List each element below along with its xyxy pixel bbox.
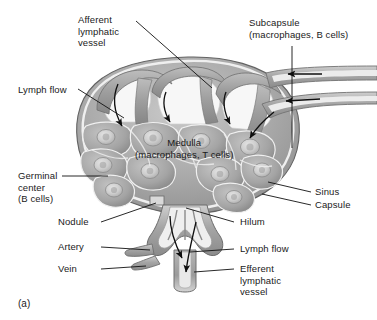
label-afferent-lymphatic-vessel: Afferent lymphatic vessel [78, 14, 119, 49]
label-germinal-center: Germinal center (B cells) [18, 170, 57, 205]
label-medulla: Medulla(macrophages, T cells) [135, 137, 233, 160]
lymph-node-body [77, 57, 300, 214]
leader-efferent [194, 269, 234, 272]
lymph-node-diagram [0, 0, 377, 320]
label-nodule: Nodule [58, 216, 89, 228]
vein-vessel [131, 256, 160, 270]
label-lymph-flow-right: Lymph flow [240, 243, 289, 255]
nodule-marker [150, 196, 164, 205]
hilum-region [125, 205, 223, 292]
leader-sinus [268, 182, 311, 192]
label-vein: Vein [58, 263, 77, 275]
label-lymph-flow-left: Lymph flow [18, 84, 67, 96]
figure-caption: (a) [18, 298, 30, 309]
label-efferent-lymphatic-vessel: Efferent lymphatic vessel [240, 263, 281, 298]
label-artery: Artery [58, 241, 84, 253]
label-hilum: Hilum [240, 216, 265, 228]
leader-capsule [262, 194, 311, 205]
label-subcapsule: Subcapsule (macrophages, B cells) [249, 17, 348, 40]
label-sinus: Sinus [315, 186, 339, 198]
efferent-vessel-lumen [179, 252, 191, 288]
label-capsule: Capsule [315, 199, 351, 211]
